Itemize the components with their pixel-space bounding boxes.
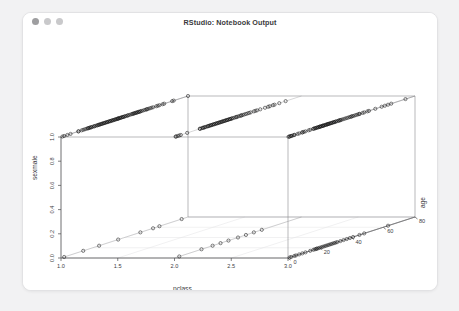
- minimize-dot-icon[interactable]: [44, 18, 51, 25]
- z-axis-title: age: [419, 197, 426, 208]
- x-tick-label: 1.5: [114, 263, 122, 269]
- screen: RStudio: Notebook Output 1.01.52.02.53.0…: [0, 0, 459, 311]
- y-tick-label: 0.6: [49, 182, 55, 190]
- z-tick: [415, 217, 418, 219]
- x-tick-label: 1.0: [57, 263, 65, 269]
- plot-canvas: 1.01.52.02.53.00.00.20.40.60.81.00204060…: [23, 32, 437, 290]
- window-titlebar[interactable]: RStudio: Notebook Output: [23, 13, 437, 32]
- z-tick: [383, 227, 386, 229]
- scatterplot3d: 1.01.52.02.53.00.00.20.40.60.81.00204060…: [23, 32, 437, 290]
- z-tick-label: 40: [355, 239, 361, 245]
- y-tick-label: 0.8: [49, 157, 55, 165]
- y-tick-label: 1.0: [49, 133, 55, 141]
- z-tick-label: 0: [293, 259, 296, 265]
- y-tick-label: 0.2: [49, 230, 55, 238]
- zoom-dot-icon[interactable]: [56, 18, 63, 25]
- y-axis-title: sexmale: [31, 155, 38, 180]
- x-axis-title: pclass: [173, 285, 192, 291]
- z-tick-label: 20: [324, 249, 330, 255]
- x-tick-label: 3.0: [284, 263, 292, 269]
- window-title: RStudio: Notebook Output: [183, 18, 276, 27]
- y-tick-label: 0.0: [49, 254, 55, 262]
- x-tick-label: 2.0: [171, 263, 179, 269]
- close-dot-icon[interactable]: [32, 18, 39, 25]
- z-tick-label: 60: [387, 228, 393, 234]
- window-controls[interactable]: [32, 18, 63, 25]
- rstudio-notebook-window: RStudio: Notebook Output 1.01.52.02.53.0…: [22, 12, 438, 291]
- y-tick-label: 0.4: [49, 206, 55, 214]
- z-tick-label: 80: [419, 218, 425, 224]
- x-tick-label: 2.5: [227, 263, 235, 269]
